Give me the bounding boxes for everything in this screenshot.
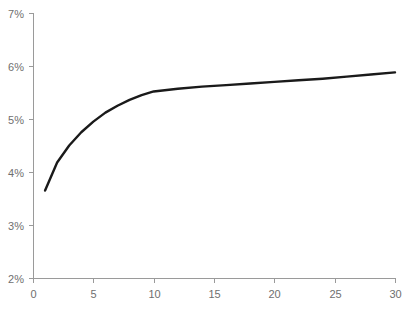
line-chart: 2%3%4%5%6%7% 051015202530 xyxy=(0,0,416,309)
x-tick-label: 10 xyxy=(148,288,160,300)
series-line xyxy=(45,72,395,190)
x-tick-label: 25 xyxy=(329,288,341,300)
y-tick-label: 5% xyxy=(8,114,24,126)
data-series-group xyxy=(45,72,395,190)
y-tick-label: 3% xyxy=(8,220,24,232)
y-tick-label: 7% xyxy=(8,8,24,20)
chart-canvas: 2%3%4%5%6%7% 051015202530 xyxy=(0,0,416,309)
y-tick-label: 4% xyxy=(8,167,24,179)
x-tick-label: 20 xyxy=(268,288,280,300)
x-tick-group: 051015202530 xyxy=(30,278,401,300)
x-tick-label: 15 xyxy=(208,288,220,300)
y-axis: 2%3%4%5%6%7% xyxy=(8,8,33,285)
y-tick-label: 2% xyxy=(8,273,24,285)
x-tick-label: 5 xyxy=(90,288,96,300)
x-tick-label: 30 xyxy=(389,288,401,300)
y-tick-label: 6% xyxy=(8,61,24,73)
y-tick-group: 2%3%4%5%6%7% xyxy=(8,8,33,285)
x-tick-label: 0 xyxy=(30,288,36,300)
x-axis: 051015202530 xyxy=(30,278,401,300)
